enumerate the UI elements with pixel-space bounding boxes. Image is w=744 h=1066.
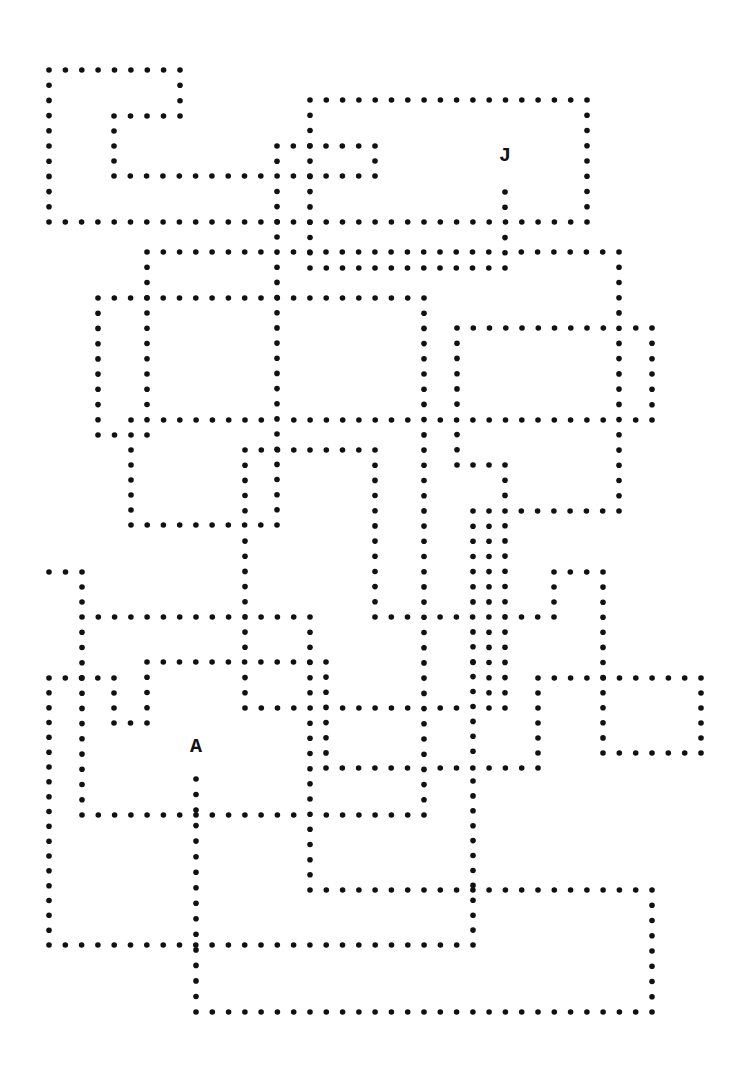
maze-dot bbox=[649, 356, 655, 362]
maze-dot bbox=[421, 1009, 427, 1015]
maze-dot bbox=[242, 478, 248, 484]
maze-dot bbox=[470, 887, 476, 893]
maze-dot bbox=[519, 249, 525, 255]
maze-dot bbox=[470, 748, 476, 754]
maze-dot bbox=[274, 280, 280, 286]
maze-dot bbox=[128, 447, 134, 453]
maze-dot bbox=[340, 295, 346, 301]
maze-dot bbox=[616, 310, 622, 316]
maze-dot bbox=[242, 1009, 248, 1015]
maze-dot bbox=[193, 417, 199, 423]
maze-dot bbox=[470, 569, 476, 575]
maze-dot bbox=[535, 249, 541, 255]
maze-dot bbox=[600, 508, 606, 514]
maze-dot bbox=[535, 735, 541, 741]
maze-dot bbox=[567, 249, 573, 255]
maze-dot bbox=[372, 614, 378, 620]
maze-dot bbox=[649, 979, 655, 985]
maze-dot bbox=[144, 387, 150, 393]
maze-dot bbox=[389, 1009, 395, 1015]
maze-dot bbox=[568, 1009, 574, 1015]
maze-dot bbox=[503, 765, 509, 771]
maze-dot bbox=[568, 675, 574, 681]
maze-dot bbox=[307, 811, 313, 817]
maze-dot bbox=[161, 614, 167, 620]
maze-dot bbox=[242, 614, 248, 620]
maze-dot bbox=[193, 522, 199, 528]
maze-dot bbox=[193, 901, 199, 907]
maze-dot bbox=[340, 265, 346, 271]
maze-dot bbox=[486, 462, 492, 468]
maze-dot bbox=[535, 750, 541, 756]
maze-dot bbox=[258, 812, 264, 818]
maze-dot bbox=[95, 356, 101, 362]
maze-dot bbox=[454, 447, 460, 453]
maze-dot bbox=[616, 356, 622, 362]
maze-dot bbox=[356, 249, 362, 255]
maze-dot bbox=[111, 720, 117, 726]
maze-dot bbox=[95, 341, 101, 347]
maze-dot bbox=[421, 478, 427, 484]
maze-dot bbox=[291, 614, 297, 620]
maze-dot bbox=[226, 249, 232, 255]
maze-dot bbox=[193, 916, 199, 922]
maze-dot bbox=[63, 675, 69, 681]
maze-dot bbox=[144, 402, 150, 408]
maze-dot bbox=[421, 417, 427, 423]
maze-dot bbox=[307, 128, 313, 134]
maze-dot bbox=[307, 827, 313, 833]
maze-dot bbox=[698, 675, 704, 681]
maze-dot bbox=[437, 265, 443, 271]
maze-dot bbox=[177, 659, 183, 665]
maze-dot bbox=[274, 219, 280, 225]
maze-dot bbox=[421, 691, 427, 697]
maze-dot bbox=[372, 569, 378, 575]
maze-dot bbox=[502, 523, 508, 529]
maze-dot bbox=[340, 249, 346, 255]
maze-dot bbox=[340, 942, 346, 948]
maze-dot bbox=[438, 97, 444, 103]
maze-dot bbox=[46, 853, 52, 859]
maze-dot bbox=[144, 310, 150, 316]
maze-dot bbox=[46, 204, 52, 210]
maze-dot bbox=[79, 942, 85, 948]
maze-dot bbox=[584, 97, 590, 103]
maze-dot bbox=[111, 173, 117, 179]
maze-dot bbox=[210, 614, 216, 620]
maze-dot bbox=[682, 750, 688, 756]
maze-dot bbox=[486, 614, 492, 620]
maze-dot bbox=[259, 417, 265, 423]
maze-dot bbox=[584, 158, 590, 164]
maze-dot bbox=[600, 1009, 606, 1015]
maze-dot bbox=[584, 189, 590, 195]
maze-dot bbox=[340, 705, 346, 711]
maze-dot bbox=[274, 355, 280, 361]
maze-dot bbox=[454, 462, 460, 468]
maze-dot bbox=[486, 599, 492, 605]
maze-dot bbox=[340, 97, 346, 103]
maze-dot bbox=[405, 765, 411, 771]
maze-dot bbox=[144, 341, 150, 347]
maze-dot bbox=[649, 994, 655, 1000]
maze-dot bbox=[502, 235, 508, 241]
maze-dot bbox=[128, 67, 134, 73]
maze-dot bbox=[79, 629, 85, 635]
maze-dot bbox=[389, 265, 395, 271]
maze-dot bbox=[323, 735, 329, 741]
maze-dot bbox=[502, 629, 508, 635]
maze-dot bbox=[144, 417, 150, 423]
maze-dot bbox=[453, 249, 459, 255]
maze-dot bbox=[470, 734, 476, 740]
maze-dot bbox=[421, 630, 427, 636]
maze-dot bbox=[649, 918, 655, 924]
maze-dot bbox=[486, 523, 492, 529]
maze-dot bbox=[177, 67, 183, 73]
maze-dot bbox=[502, 250, 508, 256]
maze-dot bbox=[470, 523, 476, 529]
maze-dot bbox=[111, 143, 117, 149]
maze-dot bbox=[160, 942, 166, 948]
maze-dot bbox=[600, 690, 606, 696]
maze-dot bbox=[111, 705, 117, 711]
maze-dot bbox=[128, 812, 134, 818]
maze-dot bbox=[46, 779, 52, 785]
